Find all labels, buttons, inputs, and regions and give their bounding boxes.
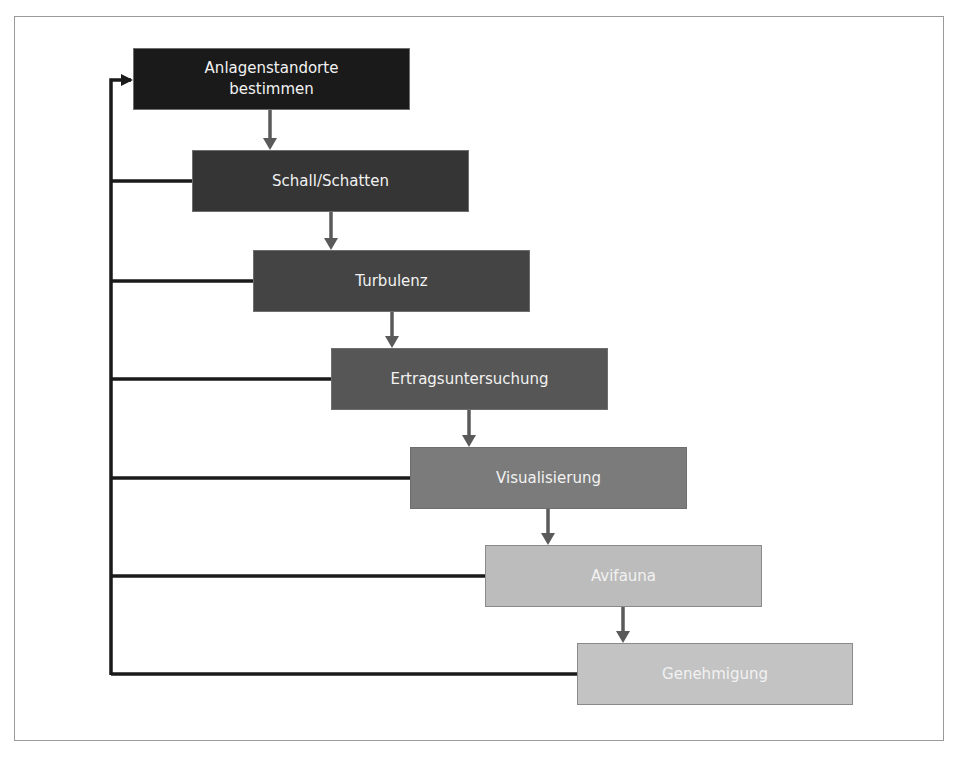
- step-label: Turbulenz: [355, 271, 427, 292]
- step-label: Ertragsuntersuchung: [390, 369, 548, 390]
- arrowhead-icon: [324, 238, 338, 250]
- step-label-line-2: bestimmen: [205, 79, 339, 100]
- step-visualisierung: Visualisierung: [410, 447, 687, 509]
- step-label: Avifauna: [591, 566, 656, 587]
- arrowhead-icon: [263, 138, 277, 150]
- step-avifauna: Avifauna: [485, 545, 762, 607]
- arrowhead-icon: [462, 435, 476, 447]
- arrowhead-icon: [616, 631, 630, 643]
- step-label: Genehmigung: [662, 664, 768, 685]
- step-label: Visualisierung: [496, 468, 601, 489]
- step-turbulenz: Turbulenz: [253, 250, 530, 312]
- step-anlagenstandorte-bestimmen: Anlagenstandorte bestimmen: [133, 48, 410, 110]
- arrowhead-icon: [385, 336, 399, 348]
- step-label: Schall/Schatten: [272, 171, 389, 192]
- step-label-line-1: Anlagenstandorte: [205, 58, 339, 79]
- step-schall-schatten: Schall/Schatten: [192, 150, 469, 212]
- step-ertragsuntersuchung: Ertragsuntersuchung: [331, 348, 608, 410]
- step-genehmigung: Genehmigung: [577, 643, 853, 705]
- arrowhead-icon: [541, 533, 555, 545]
